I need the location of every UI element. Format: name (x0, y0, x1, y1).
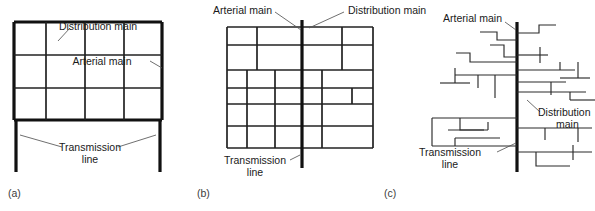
panel-c-diagram: Arterial main Distribution main Transmis… (419, 12, 595, 172)
panel-a-arterial-main-label: Arterial main (73, 55, 132, 67)
panel-c-distribution-main-label-line1: Distribution (538, 106, 591, 118)
panel-b-diagram: Arterial main Distribution main Transmis… (213, 4, 426, 178)
panel-c-right-branches (517, 25, 595, 166)
figure-canvas: Distribution main Arterial main Transmis… (0, 0, 595, 211)
panel-a-arterial-main-frame (14, 22, 162, 120)
panel-a-caption: (a) (8, 187, 21, 199)
panel-a-transmission-line-label-line2: line (82, 153, 99, 165)
panel-c-arterial-main-label: Arterial main (443, 12, 502, 24)
panel-b-transmission-line-label-line1: Transmission (224, 154, 286, 166)
panel-b-distribution-main-label: Distribution main (348, 4, 426, 16)
panel-c-distribution-main-label-line2: main (556, 118, 579, 130)
panel-c-left-branches (440, 32, 517, 98)
panel-c-left-loop-block (432, 118, 517, 146)
panel-b-arterial-main-label: Arterial main (213, 4, 272, 16)
panel-b-caption: (b) (197, 187, 210, 199)
panel-c-caption: (c) (384, 187, 396, 199)
panel-a-diagram: Distribution main Arterial main Transmis… (14, 20, 162, 172)
panel-a-distribution-verticals (46, 22, 124, 120)
panel-b-transmission-line-label-line2: line (247, 166, 264, 178)
network-layout-figure: Distribution main Arterial main Transmis… (0, 0, 595, 211)
panel-c-transmission-line-label-line2: line (442, 158, 459, 170)
panel-a-distribution-main-label: Distribution main (59, 20, 137, 32)
panel-b-horizontal-mains (227, 45, 373, 126)
panel-b-leader-lines (275, 12, 344, 160)
panel-a-transmission-line-label-line1: Transmission (59, 141, 121, 153)
panel-c-transmission-line-label-line1: Transmission (419, 146, 481, 158)
